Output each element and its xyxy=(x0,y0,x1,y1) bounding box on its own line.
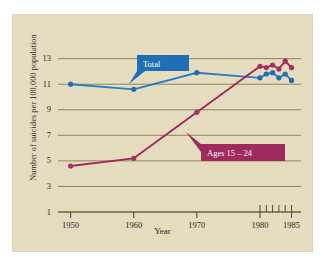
x-tick-label: 1985 xyxy=(275,220,309,230)
y-tick-label: 11 xyxy=(33,79,51,89)
chart-plot-area xyxy=(13,15,312,251)
y-tick-label: 7 xyxy=(33,130,51,140)
x-tick-label: 1960 xyxy=(117,220,151,230)
x-tick-label: 1980 xyxy=(243,220,277,230)
x-tick-label: 1950 xyxy=(54,220,88,230)
chart-figure: Number of suicides per 100,000 populatio… xyxy=(13,15,312,251)
x-tick-label: 1970 xyxy=(180,220,214,230)
y-tick-label: 13 xyxy=(33,53,51,63)
y-tick-label: 9 xyxy=(33,104,51,114)
y-tick-label: 3 xyxy=(33,181,51,191)
gridlines xyxy=(58,59,301,212)
y-tick-label: 1 xyxy=(33,207,51,217)
y-tick-label: 5 xyxy=(33,155,51,165)
